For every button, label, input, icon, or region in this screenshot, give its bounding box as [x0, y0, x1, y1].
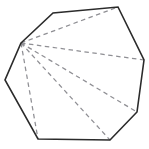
- geometry-figure-container: [0, 0, 149, 149]
- octagon-outline: [5, 7, 144, 140]
- diagonal-AD: [21, 43, 144, 60]
- octagon-diagram-svg: [0, 0, 149, 149]
- diagonal-AF: [21, 43, 110, 140]
- diagonals-group: [21, 7, 144, 140]
- diagonal-AC: [21, 7, 118, 43]
- diagonal-AE: [21, 43, 137, 112]
